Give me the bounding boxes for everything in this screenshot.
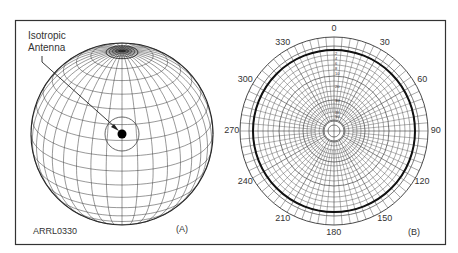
callout-line-2: Antenna xyxy=(28,43,65,53)
angle-label-180: 180 xyxy=(326,228,341,237)
angle-label-120: 120 xyxy=(415,177,430,186)
figure: 24681020304050 Isotropic Antenna ARRL033… xyxy=(0,0,458,253)
angle-label-240: 240 xyxy=(238,177,253,186)
angle-label-60: 60 xyxy=(417,75,427,84)
radial-scale-label: 30 xyxy=(335,98,340,103)
polar-plot: 24681020304050 xyxy=(240,37,428,225)
callout-leader-line xyxy=(42,56,116,128)
figure-id-label: ARRL0330 xyxy=(33,227,77,236)
panel-a-label: (A) xyxy=(176,225,188,234)
angle-label-210: 210 xyxy=(275,214,290,223)
radial-scale-label: 10 xyxy=(335,71,340,76)
panel-b-label: (B) xyxy=(408,228,420,237)
angle-label-150: 150 xyxy=(377,214,392,223)
radial-scale-label: 50 xyxy=(335,114,340,119)
angle-label-270: 270 xyxy=(224,126,239,135)
radial-scale-label: 20 xyxy=(335,84,340,89)
angle-label-300: 300 xyxy=(238,75,253,84)
angle-label-30: 30 xyxy=(380,38,390,47)
angle-label-90: 90 xyxy=(431,126,441,135)
angle-label-0: 0 xyxy=(331,24,336,33)
callout-line-1: Isotropic xyxy=(28,31,66,41)
angle-label-330: 330 xyxy=(275,38,290,47)
